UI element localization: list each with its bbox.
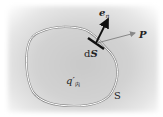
normal-vector-arrow <box>96 19 108 43</box>
field-point-arrow <box>97 33 135 43</box>
closed-surface <box>26 27 117 106</box>
enclosed-charge-label: q′内 <box>66 75 80 88</box>
normal-vector-label: en <box>99 7 109 19</box>
surface-label: S <box>114 90 121 101</box>
surface-element-label: dS <box>84 48 98 59</box>
diagram: en P dS q′内 S <box>0 0 163 117</box>
field-point-label: P <box>138 29 147 40</box>
diagram-svg: en P dS q′内 S <box>0 0 163 117</box>
